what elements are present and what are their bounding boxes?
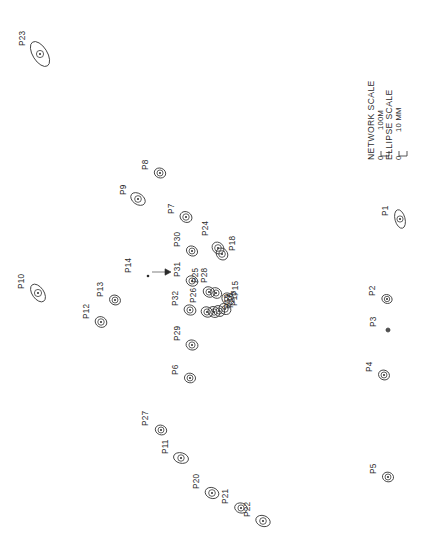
station-center-dot-icon <box>387 329 389 331</box>
station-label: P10 <box>17 274 26 289</box>
station-label: P22 <box>243 502 252 517</box>
station-center-dot-icon <box>100 321 102 323</box>
station-center-dot-icon <box>189 377 191 379</box>
station-label: P29 <box>173 326 182 341</box>
station-label: P32 <box>171 291 180 306</box>
station-center-dot-icon <box>215 292 217 294</box>
station-label: P30 <box>173 232 182 247</box>
station-center-dot-icon <box>159 172 161 174</box>
station-label: P31 <box>173 262 182 277</box>
station-center-dot-icon <box>114 299 116 301</box>
station-center-dot-icon <box>386 298 388 300</box>
station-center-dot-icon <box>399 218 401 220</box>
station-label: P3 <box>369 316 378 327</box>
ellipse-scale-label: ELLIPSE SCALE <box>384 89 394 160</box>
station-label: P13 <box>96 282 105 297</box>
station-center-dot-icon <box>208 291 210 293</box>
station-center-dot-icon <box>217 247 219 249</box>
station-label: P28 <box>200 268 209 283</box>
station-center-dot-icon <box>387 476 389 478</box>
station-label: P4 <box>365 361 374 372</box>
station-center-dot-icon <box>213 311 215 313</box>
station-label: P12 <box>82 304 91 319</box>
station-center-dot-icon <box>191 280 193 282</box>
station-center-dot-icon <box>240 507 242 509</box>
station-center-dot-icon <box>206 311 208 313</box>
plot-canvas: P1P2P3P4P5P6P7P8P9P10P11P12P13P14P15P16P… <box>0 0 422 550</box>
network-ellipse-plot: P1P2P3P4P5P6P7P8P9P10P11P12P13P14P15P16P… <box>0 0 422 550</box>
station-label: P23 <box>18 31 27 46</box>
station-label: P21 <box>221 489 230 504</box>
station-center-dot-icon <box>189 309 191 311</box>
station-label: P26 <box>189 288 198 303</box>
ellipse-scale-max: 10 MM <box>394 107 403 132</box>
station-label: P8 <box>141 159 150 170</box>
network-scale-label: NETWORK SCALE <box>366 80 376 160</box>
station-center-dot-icon <box>185 216 187 218</box>
station-label: P14 <box>124 258 133 273</box>
station-center-dot-icon <box>160 429 162 431</box>
station-center-dot-icon <box>37 292 39 294</box>
station-label: P24 <box>201 221 210 236</box>
station-label: P2 <box>368 285 377 296</box>
station-label: P20 <box>192 474 201 489</box>
plot-background <box>0 0 422 550</box>
station-label: P7 <box>167 203 176 214</box>
station-label: P5 <box>369 463 378 474</box>
station-label: P6 <box>171 364 180 375</box>
station-center-dot-icon <box>137 198 139 200</box>
station-center-dot-icon <box>211 492 213 494</box>
station-center-dot-icon <box>191 344 193 346</box>
station-center-dot-icon <box>262 520 264 522</box>
station-center-dot-icon <box>191 250 193 252</box>
station-center-dot-icon <box>147 275 150 278</box>
station-center-dot-icon <box>383 374 385 376</box>
station-label: P11 <box>161 439 170 454</box>
station-label: P9 <box>119 184 128 195</box>
station-label: P19 <box>223 294 232 309</box>
station-label: P18 <box>228 236 237 251</box>
station-label: P27 <box>141 411 150 426</box>
station-label: P1 <box>381 205 390 216</box>
station-center-dot-icon <box>180 457 182 459</box>
station-center-dot-icon <box>39 53 41 55</box>
